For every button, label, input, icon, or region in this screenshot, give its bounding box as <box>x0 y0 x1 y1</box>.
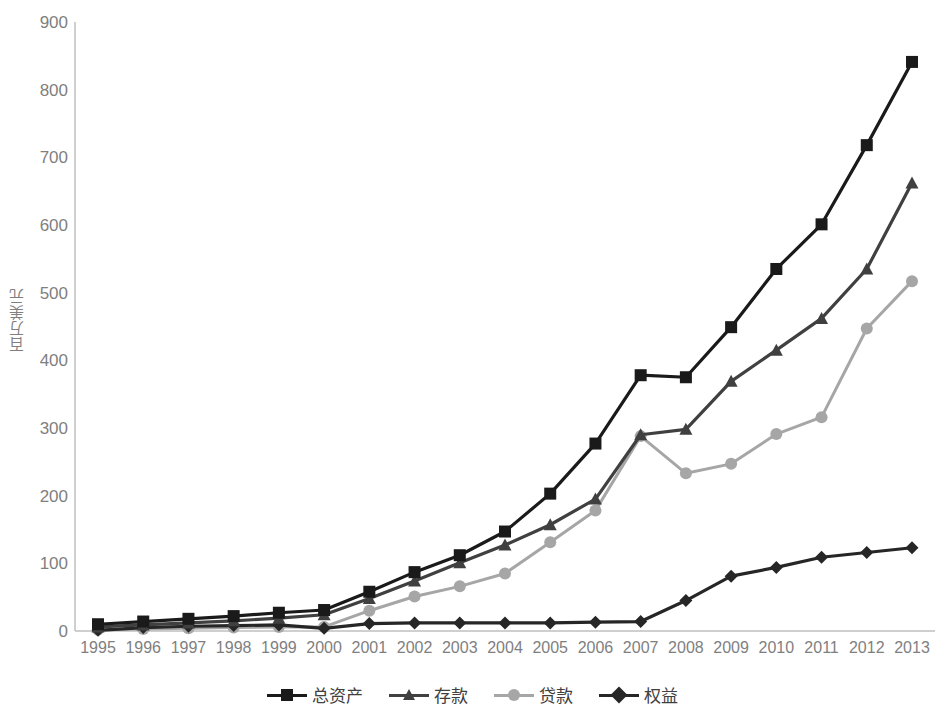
x-axis-tick-label: 2013 <box>889 640 935 656</box>
data-point-marker <box>454 549 466 561</box>
x-axis-tick-label: 2012 <box>844 640 890 656</box>
data-point-marker <box>680 467 692 479</box>
data-point-marker <box>770 263 782 275</box>
data-point-marker <box>816 218 828 230</box>
x-axis-tick-label: 2009 <box>708 640 754 656</box>
y-axis-tick-label: 200 <box>24 487 68 504</box>
data-point-marker <box>589 505 601 517</box>
x-axis-tick-label: 2001 <box>346 640 392 656</box>
x-axis-tick-label: 1998 <box>211 640 257 656</box>
data-point-marker <box>499 567 511 579</box>
x-axis-tick-label: 2007 <box>618 640 664 656</box>
data-point-marker <box>318 604 330 616</box>
legend-item-label: 贷款 <box>539 682 573 707</box>
data-point-marker <box>408 616 421 629</box>
x-axis-tick-label: 2011 <box>799 640 845 656</box>
x-axis-tick-label: 1996 <box>120 640 166 656</box>
legend-item-存款[interactable]: 存款 <box>389 682 468 707</box>
data-point-marker <box>137 616 149 628</box>
x-axis-tick-label: 2005 <box>527 640 573 656</box>
y-axis-tick-label: 300 <box>24 420 68 437</box>
data-point-marker <box>363 586 375 598</box>
data-point-marker <box>861 139 873 151</box>
legend-item-label: 存款 <box>434 682 468 707</box>
legend-item-贷款[interactable]: 贷款 <box>494 682 573 707</box>
data-point-marker <box>634 615 647 628</box>
x-axis-tick-label: 2000 <box>301 640 347 656</box>
x-axis-tick-label: 2010 <box>753 640 799 656</box>
data-point-marker <box>860 546 873 559</box>
data-point-marker <box>770 428 782 440</box>
legend-marker-triangle-icon <box>403 689 415 700</box>
data-point-marker <box>453 616 466 629</box>
data-point-marker <box>544 488 556 500</box>
y-axis-tick-label: 500 <box>24 284 68 301</box>
legend-item-label: 权益 <box>644 682 678 707</box>
data-point-marker <box>861 323 873 335</box>
legend-marker-diamond-icon <box>610 686 627 703</box>
data-point-marker <box>92 618 104 630</box>
data-point-marker <box>679 594 692 607</box>
x-axis-tick-label: 1995 <box>75 640 121 656</box>
y-axis-tick-label: 800 <box>24 81 68 98</box>
y-axis-tick-label: 600 <box>24 217 68 234</box>
x-axis-tick-label: 1997 <box>165 640 211 656</box>
data-point-marker <box>589 616 602 629</box>
data-point-marker <box>635 369 647 381</box>
data-point-marker <box>363 617 376 630</box>
y-axis-tick-label: 100 <box>24 555 68 572</box>
data-point-marker <box>860 262 873 274</box>
x-axis-tick-labels: 1995199619971998199920002001200220032004… <box>75 640 935 666</box>
legend-key-diamond-icon <box>599 686 639 704</box>
legend-key-circle-icon <box>494 686 534 704</box>
data-point-marker <box>544 616 557 629</box>
data-point-marker <box>725 321 737 333</box>
data-point-marker <box>409 566 421 578</box>
data-point-marker <box>409 590 421 602</box>
y-axis-tick-label: 0 <box>24 623 68 640</box>
data-point-marker <box>544 518 557 530</box>
data-point-marker <box>273 607 285 619</box>
y-axis-tick-labels: 0100200300400500600700800900 <box>20 0 68 660</box>
data-point-marker <box>906 56 918 68</box>
data-point-marker <box>499 616 512 629</box>
y-axis-tick-label: 900 <box>24 14 68 31</box>
data-point-marker <box>815 551 828 564</box>
x-axis-tick-label: 2003 <box>437 640 483 656</box>
data-point-marker <box>544 536 556 548</box>
x-axis-tick-label: 2006 <box>572 640 618 656</box>
series-贷款 <box>92 275 918 635</box>
legend-marker-circle-icon <box>508 689 520 701</box>
series-line <box>98 183 912 627</box>
plot-svg <box>75 22 935 631</box>
data-point-marker <box>906 275 918 287</box>
data-point-marker <box>680 371 692 383</box>
data-point-marker <box>454 580 466 592</box>
legend-item-label: 总资产 <box>312 682 363 707</box>
x-axis-tick-label: 2004 <box>482 640 528 656</box>
legend-key-triangle-icon <box>389 686 429 704</box>
data-point-marker <box>228 610 240 622</box>
legend-item-权益[interactable]: 权益 <box>599 682 678 707</box>
chart-legend: 总资产存款贷款权益 <box>0 682 944 707</box>
plot-area <box>75 22 935 631</box>
data-point-marker <box>589 438 601 450</box>
data-point-marker <box>182 613 194 625</box>
y-axis-tick-label: 400 <box>24 352 68 369</box>
legend-key-square-icon <box>267 686 307 704</box>
data-point-marker <box>499 526 511 538</box>
data-point-marker <box>770 561 783 574</box>
data-point-marker <box>725 570 738 583</box>
legend-marker-square-icon <box>281 689 293 701</box>
data-point-marker <box>816 411 828 423</box>
legend-item-总资产[interactable]: 总资产 <box>267 682 363 707</box>
x-axis-tick-label: 2008 <box>663 640 709 656</box>
data-point-marker <box>725 458 737 470</box>
x-axis-tick-label: 2002 <box>392 640 438 656</box>
data-point-marker <box>363 605 375 617</box>
y-axis-tick-label: 700 <box>24 149 68 166</box>
line-chart: 百万美元 0100200300400500600700800900 199519… <box>0 0 944 711</box>
data-point-marker <box>906 541 919 554</box>
data-point-marker <box>906 177 919 189</box>
x-axis-tick-label: 1999 <box>256 640 302 656</box>
